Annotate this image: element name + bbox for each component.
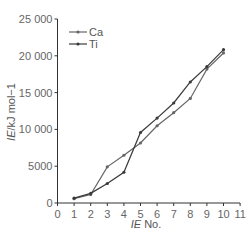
series-line [74,50,223,198]
data-point [73,197,76,200]
data-point [156,124,159,127]
data-point [122,154,125,157]
data-point [106,182,109,185]
data-point [222,51,225,54]
legend-marker-icon [76,30,79,33]
y-axis-ticks: 0500010 00015 00020 00025 000 [19,13,58,209]
axes [58,19,241,203]
data-point [139,131,142,134]
legend-item-ca: Ca [69,26,104,38]
y-tick-label: 5000 [28,160,52,172]
legend: CaTi [69,26,104,50]
data-point [156,117,159,120]
y-tick-label: 10 000 [19,123,53,135]
data-point [222,48,225,51]
data-point [122,171,125,174]
series-ti [73,48,226,200]
y-tick-label: 20 000 [19,50,53,62]
legend-item-ti: Ti [69,38,98,50]
x-tick-label: 11 [234,208,245,220]
ionization-energy-chart: 0500010 00015 00020 00025 000 0123456789… [0,0,251,233]
legend-marker-icon [76,42,79,45]
x-tick-label: 8 [187,208,193,220]
x-tick-label: 0 [54,208,60,220]
x-tick-label: 4 [121,208,127,220]
data-point [189,97,192,100]
data-series [73,48,226,200]
data-point [89,192,92,195]
x-tick-label: 2 [88,208,94,220]
x-tick-label: 3 [104,208,110,220]
legend-label: Ca [89,26,104,38]
data-point [106,165,109,168]
y-axis-label: IE/kJ mol−1 [5,83,17,141]
x-tick-label: 7 [171,208,177,220]
y-tick-label: 15 000 [19,87,53,99]
y-tick-label: 0 [46,197,52,209]
data-point [172,111,175,114]
x-tick-label: 1 [71,208,77,220]
data-point [139,141,142,144]
data-point [189,80,192,83]
data-point [172,101,175,104]
y-tick-label: 25 000 [19,13,53,25]
x-tick-label: 10 [217,208,229,220]
data-point [205,65,208,68]
x-axis-label: IE No. [131,218,162,230]
x-tick-label: 9 [204,208,210,220]
legend-label: Ti [89,38,98,50]
